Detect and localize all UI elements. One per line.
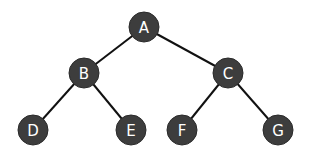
- tree-node-g: G: [263, 115, 293, 145]
- node-label: F: [178, 122, 187, 140]
- node-label: B: [79, 65, 89, 83]
- tree-node-a: A: [129, 12, 159, 42]
- node-label: C: [223, 65, 233, 83]
- tree-node-b: B: [69, 58, 99, 88]
- node-label: E: [126, 122, 135, 140]
- binary-tree-diagram: ABCDEFG: [0, 0, 311, 158]
- tree-node-d: D: [18, 115, 48, 145]
- tree-node-f: F: [167, 115, 197, 145]
- tree-node-c: C: [213, 58, 243, 88]
- node-label: A: [139, 19, 150, 37]
- tree-node-e: E: [116, 115, 146, 145]
- node-label: G: [272, 122, 284, 140]
- nodes-layer: ABCDEFG: [18, 12, 293, 145]
- node-label: D: [27, 122, 39, 140]
